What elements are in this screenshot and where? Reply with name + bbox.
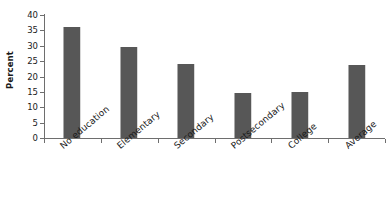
- y-axis-tick-label: 15: [0, 87, 38, 97]
- x-axis-tick-mark: [271, 139, 272, 143]
- y-axis-tick-mark: [40, 77, 44, 78]
- y-axis-tick-label: 10: [0, 102, 38, 112]
- y-axis-tick-mark: [40, 46, 44, 47]
- x-axis-tick-mark: [215, 139, 216, 143]
- y-axis-tick-label: 20: [0, 72, 38, 82]
- y-axis-tick-mark: [40, 107, 44, 108]
- x-axis-tick-mark: [385, 139, 386, 143]
- y-axis-tick-mark: [40, 61, 44, 62]
- y-axis-tick-label: 30: [0, 41, 38, 51]
- x-axis-tick-mark: [158, 139, 159, 143]
- bar-chart: Percent 4035302520151050No educationElem…: [0, 0, 392, 205]
- y-axis-tick-mark: [40, 123, 44, 124]
- x-axis-tick-mark: [44, 139, 45, 143]
- y-axis-line: [44, 14, 45, 139]
- y-axis-tick-label: 25: [0, 56, 38, 66]
- y-axis-tick-label: 0: [0, 133, 38, 143]
- y-axis-tick-mark: [40, 92, 44, 93]
- y-axis-tick-label: 5: [0, 118, 38, 128]
- bar: [63, 27, 81, 138]
- y-axis-tick-label: 40: [0, 10, 38, 20]
- y-axis-tick-mark: [40, 15, 44, 16]
- x-axis-tick-mark: [328, 139, 329, 143]
- y-axis-tick-mark: [40, 30, 44, 31]
- y-axis-tick-label: 35: [0, 25, 38, 35]
- x-axis-tick-mark: [101, 139, 102, 143]
